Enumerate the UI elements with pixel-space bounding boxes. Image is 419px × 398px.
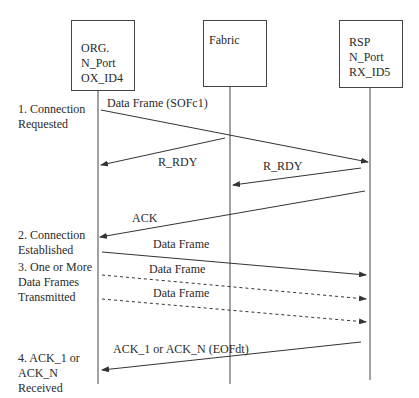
org-line-2: N_Port bbox=[81, 56, 123, 71]
step-2-label: 2. Connection Established bbox=[18, 228, 85, 258]
participant-rsp-box: RSP N_Port RX_ID5 bbox=[339, 20, 403, 88]
msg-label-ack-1-or-ack-n: ACK_1 or ACK_N (EOFdt) bbox=[113, 342, 249, 357]
msg-label-ack: ACK bbox=[132, 211, 157, 226]
step-4-label: 4. ACK_1 or ACK_N Received bbox=[18, 351, 80, 396]
org-line-1: ORG. bbox=[81, 41, 123, 56]
msg-label-data-frame-1: Data Frame bbox=[153, 237, 209, 252]
fabric-line-1: Fabric bbox=[209, 33, 240, 48]
msg-label-data-frame-2: Data Frame bbox=[149, 262, 205, 277]
rsp-line-2: N_Port bbox=[349, 50, 390, 65]
arrow-data-frame-3 bbox=[102, 299, 366, 322]
step-3-label: 3. One or More Data Frames Transmitted bbox=[18, 260, 92, 305]
rsp-line-1: RSP bbox=[349, 35, 390, 50]
msg-label-r-rdy-left: R_RDY bbox=[158, 155, 197, 170]
arrow-data-frame-1 bbox=[102, 252, 366, 275]
msg-label-data-frame-sofc1: Data Frame (SOFc1) bbox=[107, 96, 208, 111]
participant-org-box: ORG. N_Port OX_ID4 bbox=[71, 20, 135, 91]
step-1-label: 1. Connection Requested bbox=[18, 102, 85, 132]
arrow-data-frame-sofc1 bbox=[101, 110, 368, 162]
rsp-line-3: RX_ID5 bbox=[349, 65, 390, 80]
arrow-data-frame-2 bbox=[102, 275, 366, 299]
org-line-3: OX_ID4 bbox=[81, 71, 123, 86]
participant-fabric-box: Fabric bbox=[203, 20, 267, 87]
msg-label-r-rdy-right: R_RDY bbox=[263, 159, 302, 174]
msg-label-data-frame-3: Data Frame bbox=[153, 286, 209, 301]
